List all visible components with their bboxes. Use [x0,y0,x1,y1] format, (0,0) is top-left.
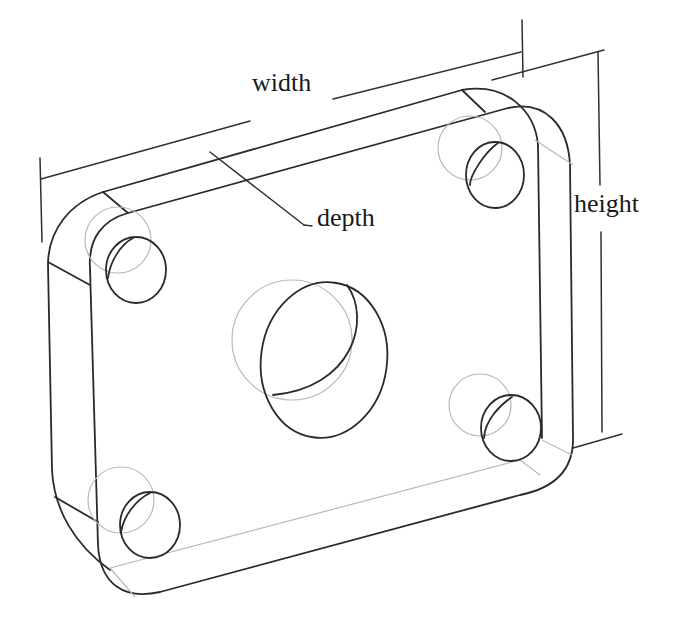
front-face [90,107,573,595]
depth-edge-top-right [462,90,485,112]
back-face [48,89,538,570]
hole-top-right-inner-arc [470,143,498,185]
depth-leader-line [210,152,304,225]
hidden-hole-bottom-left-back [88,467,154,533]
width-extension-left [40,158,42,242]
hole-bottom-left-inner-arc [121,493,150,532]
width-extension-right [522,20,523,77]
hole-top-right [466,142,524,208]
front-face-outline [90,107,573,595]
depth-leader-tail [304,225,312,226]
width-dimension-line-left [41,121,250,179]
width-dimension-line-right [333,52,521,99]
width-label: width [252,70,311,96]
hole-bottom-left [120,492,180,558]
hidden-depth-bottom-left [110,568,135,597]
back-face-right-edge [538,145,542,438]
depth-edge-left [48,262,90,285]
depth-label: depth [317,205,375,231]
center-bore-front [251,274,397,446]
hidden-edges [85,116,573,597]
hidden-depth-right-bottom [520,460,540,475]
height-dimension-line-bottom [601,232,602,432]
hidden-depth-bottom-right [542,440,572,455]
height-dimension-line-top [598,52,600,185]
height-label: height [574,191,639,217]
hole-bottom-left-front [120,492,180,558]
plate-drawing [0,0,686,620]
depth-leader [210,152,312,226]
width-dimension [40,20,523,242]
depth-edges [48,90,542,522]
height-dimension [492,50,622,448]
hole-top-left [106,237,166,303]
back-face-top-edge [103,90,462,192]
hole-top-right-front [466,142,524,208]
hidden-center-bore-back [232,280,352,400]
hole-top-left-front [106,237,166,303]
depth-edge-top-left [103,192,128,213]
back-face-left-edge [48,192,110,570]
center-bore [251,274,397,446]
height-extension-bottom [573,434,622,448]
hidden-back-bottom-edge [110,460,520,568]
